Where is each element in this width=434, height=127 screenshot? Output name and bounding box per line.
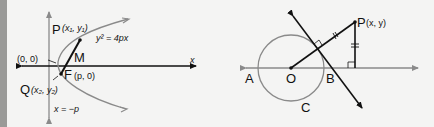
label-equation: y² = 4px: [95, 33, 129, 43]
label-directrix: x = −p: [53, 104, 79, 114]
diagrams-canvas: P (x₁, y₁) y² = 4px (0, 0) M F (p, 0) x …: [0, 0, 434, 127]
label-C: C: [301, 100, 310, 115]
label-origin: (0, 0): [17, 54, 38, 64]
label-O: O: [286, 71, 296, 86]
label-P: P: [52, 22, 61, 37]
parabola-figure: P (x₁, y₁) y² = 4px (0, 0) M F (p, 0) x …: [17, 12, 196, 118]
label-P-coords: (x₁, y₁): [62, 23, 88, 33]
label-B: B: [326, 71, 335, 86]
point-Q: [59, 72, 63, 76]
label-x-axis: x: [189, 55, 195, 65]
label-P2-coords: (x, y): [366, 18, 386, 28]
label-Q-coords: (x₂, y₂): [31, 85, 58, 95]
label-M: M: [74, 50, 85, 65]
label-F-coords: (p, 0): [74, 71, 95, 81]
point-P: [78, 38, 82, 42]
label-P2: P: [357, 15, 366, 30]
label-Q: Q: [20, 82, 30, 97]
point-O: [289, 66, 293, 70]
label-A: A: [245, 71, 254, 86]
circle-figure: P (x, y) A O B C: [245, 15, 418, 115]
label-F: F: [64, 67, 72, 82]
